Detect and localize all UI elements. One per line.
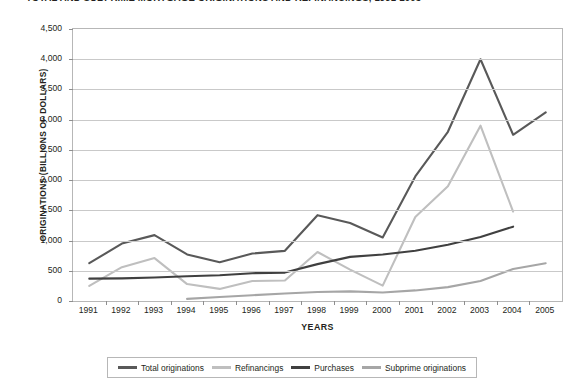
grid-line xyxy=(73,210,562,211)
x-axis-tick-labels: 1991199219931994199519961997199819992000… xyxy=(72,305,563,319)
y-axis-tick-labels: 05001,0001,5002,0002,5003,0003,5004,0004… xyxy=(0,0,68,387)
y-axis-tick-mark xyxy=(69,150,73,151)
y-axis-tick-mark xyxy=(69,59,73,60)
y-axis-tick-label: 2,000 xyxy=(40,174,62,184)
legend-item[interactable]: Refinancings xyxy=(212,363,283,373)
y-axis-tick-label: 3,000 xyxy=(40,114,62,124)
grid-line xyxy=(73,180,562,181)
grid-line xyxy=(73,271,562,272)
y-axis-tick-label: 2,500 xyxy=(40,144,62,154)
y-axis-tick-label: 3,500 xyxy=(40,83,62,93)
y-axis-tick-mark xyxy=(69,89,73,90)
grid-line xyxy=(73,59,562,60)
y-axis-tick-label: 1,000 xyxy=(40,235,62,245)
series-lines xyxy=(73,29,562,301)
y-axis-tick-mark xyxy=(69,120,73,121)
x-axis-tick-label: 1996 xyxy=(242,305,261,315)
chart-legend: Total originationsRefinancingsPurchasesS… xyxy=(107,357,477,378)
legend-item[interactable]: Total originations xyxy=(118,363,204,373)
chart-figure: TOTAL AND SUBPRIME MORTGAGE ORIGINATIONS… xyxy=(0,0,583,387)
y-axis-tick-label: 0 xyxy=(57,295,62,305)
x-axis-tick-label: 2003 xyxy=(470,305,489,315)
legend-swatch-icon xyxy=(291,366,310,369)
grid-line xyxy=(73,241,562,242)
x-axis-tick-label: 1993 xyxy=(144,305,163,315)
y-axis-tick-mark xyxy=(69,241,73,242)
y-axis-tick-label: 500 xyxy=(48,265,62,275)
x-axis-tick-label: 1995 xyxy=(209,305,228,315)
x-axis-tick-label: 2004 xyxy=(503,305,522,315)
y-axis-tick-mark xyxy=(69,301,73,302)
x-axis-tick-label: 1994 xyxy=(177,305,196,315)
legend-item-label: Refinancings xyxy=(235,363,283,373)
legend-item[interactable]: Purchases xyxy=(291,363,354,373)
grid-line xyxy=(73,150,562,151)
legend-item[interactable]: Subprime originations xyxy=(362,363,466,373)
series-line xyxy=(187,263,546,299)
y-axis-tick-label: 4,000 xyxy=(40,53,62,63)
x-axis-tick-label: 2001 xyxy=(405,305,424,315)
page-title: TOTAL AND SUBPRIME MORTGAGE ORIGINATIONS… xyxy=(26,0,421,3)
x-axis-tick-label: 1998 xyxy=(307,305,326,315)
legend-swatch-icon xyxy=(212,366,231,369)
x-axis-tick-label: 1992 xyxy=(111,305,130,315)
plot-area xyxy=(72,28,563,302)
x-axis-tick-label: 2002 xyxy=(437,305,456,315)
y-axis-tick-mark xyxy=(69,271,73,272)
x-axis-tick-label: 1999 xyxy=(340,305,359,315)
x-axis-tick-label: 2000 xyxy=(372,305,391,315)
y-axis-tick-label: 4,500 xyxy=(40,23,62,33)
legend-item-label: Subprime originations xyxy=(385,363,466,373)
grid-line xyxy=(73,120,562,121)
legend-swatch-icon xyxy=(362,366,381,369)
x-axis-title: YEARS xyxy=(72,322,563,332)
y-axis-tick-mark xyxy=(69,29,73,30)
x-axis-tick-label: 1997 xyxy=(274,305,293,315)
chart-title-clipped: TOTAL AND SUBPRIME MORTGAGE ORIGINATIONS… xyxy=(0,0,583,6)
y-axis-tick-label: 1,500 xyxy=(40,204,62,214)
grid-line xyxy=(73,89,562,90)
x-axis-tick-label: 1991 xyxy=(79,305,98,315)
y-axis-tick-mark xyxy=(69,210,73,211)
legend-item-label: Total originations xyxy=(141,363,204,373)
x-axis-tick-label: 2005 xyxy=(535,305,554,315)
legend-swatch-icon xyxy=(118,366,137,369)
legend-item-label: Purchases xyxy=(314,363,354,373)
y-axis-tick-mark xyxy=(69,180,73,181)
